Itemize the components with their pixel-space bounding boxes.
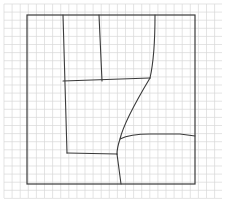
diagram-canvas [0, 0, 227, 205]
